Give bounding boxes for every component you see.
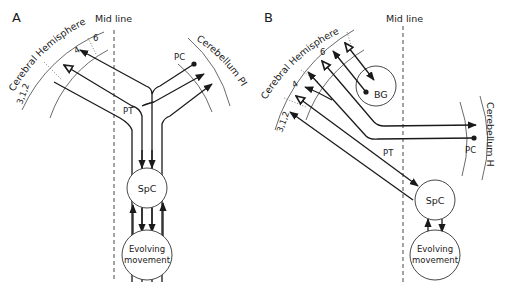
panel-a-cerebral-label: Cerebral Hemisphere <box>6 16 87 93</box>
panel-b-area-312: 3,1,2 <box>274 110 291 134</box>
panel-b-area-4: 4 <box>290 78 300 89</box>
panel-a-pt-label: PT <box>123 106 134 116</box>
panel-a-cortex-outer <box>22 32 104 110</box>
panel-b-cerebral-label: Cerebral Hemisphere <box>258 25 340 101</box>
panel-a-pc-label: PC <box>174 52 185 62</box>
panel-b-evolving-line2: movement <box>412 255 459 265</box>
panel-b-letter: B <box>264 10 273 25</box>
panel-b-pt-label: PT <box>383 148 394 158</box>
panel-b-pt-tract-2 <box>290 112 413 200</box>
panel-b-evolving-line1: Evolving <box>417 244 453 254</box>
panel-b-spc-label: SpC <box>426 195 445 206</box>
panel-a-spc-label: SpC <box>138 183 157 194</box>
panel-a-cerebellum-label: Cerebellum PI <box>195 33 250 88</box>
panel-a-evolving-line2: movement <box>124 255 171 265</box>
panel-b-pt-tract-1 <box>296 96 418 186</box>
figure: A Mid line Cerebral Hemisphere 6 4 3,1,2… <box>0 0 511 292</box>
panel-b-bg-output <box>333 51 366 92</box>
panel-b-pc-label: PC <box>465 145 476 155</box>
panel-b-midline-label: Mid line <box>386 13 423 24</box>
panel-a-area-6: 6 <box>93 33 98 43</box>
panel-a-midline-label: Mid line <box>95 13 132 24</box>
panel-a-boundary-312-4 <box>44 62 62 80</box>
panel-a-tract-pc <box>152 64 194 94</box>
diagram-canvas: A Mid line Cerebral Hemisphere 6 4 3,1,2… <box>0 0 511 292</box>
panel-a: A Mid line Cerebral Hemisphere 6 4 3,1,2… <box>6 10 249 282</box>
panel-b-cerebellum-inner <box>460 102 467 176</box>
panel-b-boundary-312-4 <box>284 98 306 107</box>
panel-b-bg-label: BG <box>374 89 388 100</box>
panel-b-area-6: 6 <box>320 47 325 57</box>
panel-a-letter: A <box>12 10 21 25</box>
panel-b-tract-cbl-1 <box>322 61 476 126</box>
panel-a-evolving-line1: Evolving <box>129 244 165 254</box>
panel-a-tract-312 <box>54 82 132 282</box>
panel-b-cerebellum-label: Cerebellum H <box>485 102 496 167</box>
panel-b: B Mid line Cerebral Hemisphere 6 4 3,1,2… <box>258 10 496 282</box>
